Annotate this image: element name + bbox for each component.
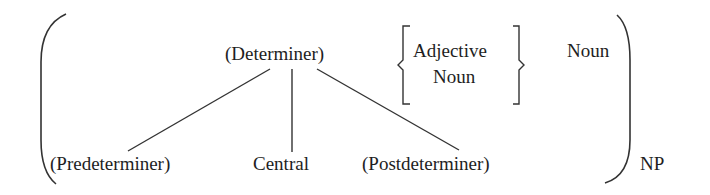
head-noun-label: Noun	[567, 41, 609, 60]
predeterminer-label: (Predeterminer)	[50, 154, 170, 173]
left-brace	[398, 26, 410, 104]
central-label: Central	[253, 154, 309, 173]
branch-predeterminer	[128, 69, 270, 151]
postdeterminer-label: (Postdeterminer)	[362, 154, 490, 173]
modifier-option-adjective: Adjective	[413, 41, 487, 60]
np-label: NP	[640, 154, 664, 173]
right-brace	[513, 26, 524, 104]
modifier-option-noun: Noun	[433, 67, 475, 86]
determiner-label: (Determiner)	[225, 44, 324, 63]
